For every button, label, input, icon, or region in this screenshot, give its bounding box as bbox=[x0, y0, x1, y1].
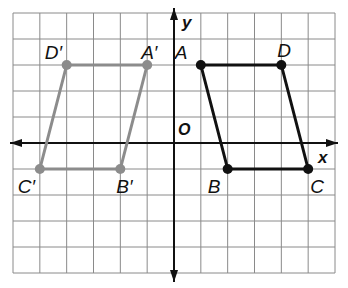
vertex-label-A: A bbox=[174, 42, 188, 63]
vertex-point bbox=[35, 164, 45, 174]
vertex-point bbox=[62, 60, 72, 70]
coordinate-plane: ADCBA′D′C′B′yxO bbox=[0, 0, 348, 288]
vertex-label-C: C bbox=[310, 176, 324, 197]
origin-label: O bbox=[178, 121, 191, 138]
y-axis-label: y bbox=[181, 13, 193, 32]
vertex-label-C-prime: C′ bbox=[18, 176, 37, 197]
x-axis-arrow-right-icon bbox=[326, 139, 338, 147]
vertex-label-B-prime: B′ bbox=[116, 176, 134, 197]
vertex-point bbox=[223, 164, 233, 174]
vertex-point bbox=[276, 60, 286, 70]
x-axis-label: x bbox=[317, 148, 329, 167]
vertex-point bbox=[303, 164, 313, 174]
y-axis-arrow-up-icon bbox=[170, 8, 178, 20]
y-axis-arrow-down-icon bbox=[170, 270, 178, 282]
x-axis-arrow-left-icon bbox=[10, 139, 22, 147]
vertex-label-A-prime: A′ bbox=[140, 42, 159, 63]
vertex-label-D: D bbox=[277, 40, 291, 61]
vertex-point bbox=[196, 60, 206, 70]
vertex-point bbox=[115, 164, 125, 174]
vertex-label-D-prime: D′ bbox=[45, 42, 64, 63]
vertex-label-B: B bbox=[208, 176, 221, 197]
